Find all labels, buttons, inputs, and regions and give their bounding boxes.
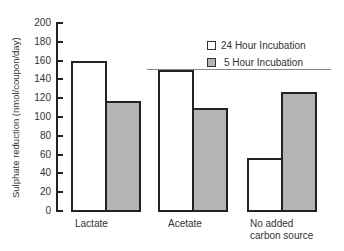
y-tick-label: 20 [29, 187, 51, 197]
bar-24h [71, 61, 107, 212]
bar-24h [158, 70, 194, 212]
y-tick-label: 140 [29, 74, 51, 84]
legend-divider [147, 69, 331, 70]
y-axis-label: Sulphate reduction (nmol/coupon/day) [10, 37, 21, 198]
legend-swatch-white-icon [207, 41, 216, 50]
y-tick [57, 60, 63, 62]
legend-label: 5 Hour Incubation [224, 57, 303, 68]
y-tick-label: 40 [29, 168, 51, 178]
y-tick [57, 135, 63, 137]
y-tick-label: 180 [29, 37, 51, 47]
legend-item-24h: 24 Hour Incubation [207, 40, 306, 51]
y-tick [57, 154, 63, 156]
y-tick [57, 210, 63, 212]
y-tick-label: 60 [29, 150, 51, 160]
legend-swatch-shaded-icon [207, 58, 216, 67]
y-tick [57, 22, 63, 24]
bar-group-baseline [71, 210, 141, 212]
y-tick-label: 80 [29, 131, 51, 141]
category-label: No addedcarbon source [250, 218, 313, 242]
y-tick-label: 100 [29, 112, 51, 122]
legend-item-5h: 5 Hour Incubation [207, 57, 303, 68]
legend-label: 24 Hour Incubation [221, 40, 306, 51]
bar-5h [192, 108, 228, 212]
category-label: Acetate [168, 218, 202, 230]
category-label: Lactate [75, 218, 108, 230]
bar-5h [281, 92, 317, 212]
bar-group-baseline [247, 210, 317, 212]
bar-chart: Sulphate reduction (nmol/coupon/day) 020… [0, 0, 344, 251]
bar-24h [247, 158, 283, 212]
y-tick [57, 78, 63, 80]
bar-group-baseline [158, 210, 228, 212]
y-tick-label: 160 [29, 56, 51, 66]
y-tick-label: 200 [29, 18, 51, 28]
y-tick [57, 41, 63, 43]
y-tick [57, 172, 63, 174]
y-tick [57, 97, 63, 99]
y-tick-label: 0 [29, 206, 51, 216]
y-tick [57, 191, 63, 193]
y-tick-label: 120 [29, 93, 51, 103]
y-tick [57, 116, 63, 118]
bar-5h [105, 101, 141, 212]
